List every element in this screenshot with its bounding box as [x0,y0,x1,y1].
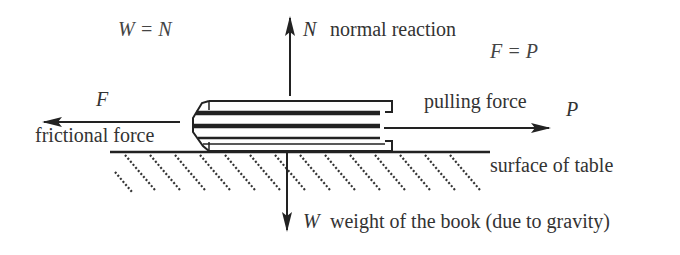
weight-label: weight of the book (due to gravity) [330,210,610,233]
normal-force-symbol: N [302,18,318,40]
table-hatching [115,155,480,192]
book [193,101,392,151]
pull-symbol: P [565,98,578,120]
surface-label: surface of table [490,154,613,176]
force-diagram: W = N F = P N n [0,0,680,255]
equation-f-equals-p: F = P [489,40,538,62]
pull-label: pulling force [424,90,527,113]
friction-label: frictional force [35,124,154,146]
weight-symbol: W [303,210,322,232]
equation-w-equals-n: W = N [118,18,173,40]
normal-force-label: normal reaction [330,18,456,40]
friction-symbol: F [95,88,109,110]
